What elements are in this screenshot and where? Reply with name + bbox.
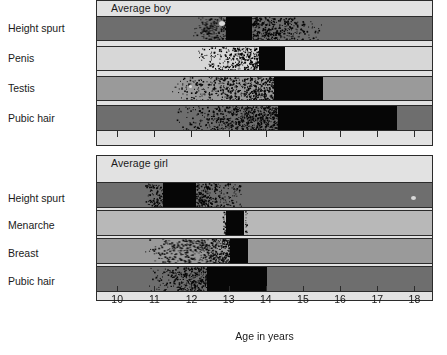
bar-girl-menarche bbox=[97, 210, 432, 236]
solid-peak-block bbox=[226, 17, 252, 40]
stipple-ramp bbox=[144, 239, 229, 263]
axis-tick-label-16: 16 bbox=[334, 293, 346, 305]
solid-peak-block bbox=[274, 77, 322, 100]
stipple-ramp bbox=[174, 106, 278, 130]
axis-tick-15 bbox=[303, 286, 304, 292]
puberty-sequence-figure: Average boy Height spurt Penis Testis Pu… bbox=[0, 0, 447, 355]
axis-tick-13 bbox=[229, 286, 230, 292]
row-label-boy-height-spurt: Height spurt bbox=[8, 22, 94, 34]
x-axis-title: Age in years bbox=[96, 330, 433, 342]
axis-tick-label-15: 15 bbox=[297, 293, 309, 305]
stipple-ramp bbox=[196, 47, 259, 70]
axis-tick-16 bbox=[340, 131, 341, 137]
stipple-fade bbox=[252, 17, 323, 40]
bar-boy-penis bbox=[97, 46, 432, 71]
axis-tick-label-10: 10 bbox=[111, 293, 123, 305]
stipple-ramp bbox=[144, 183, 163, 207]
row-label-boy-penis: Penis bbox=[8, 52, 94, 64]
panel-title-girl: Average girl bbox=[111, 157, 168, 169]
axis-tick-10 bbox=[117, 131, 118, 137]
bar-girl-height-spurt bbox=[97, 182, 432, 208]
axis-tick-label-17: 17 bbox=[371, 293, 383, 305]
stipple-fade bbox=[245, 211, 249, 235]
scan-artifact-speck bbox=[219, 21, 225, 26]
solid-peak-block bbox=[163, 183, 196, 207]
bar-girl-breast bbox=[97, 238, 432, 264]
solid-peak-block bbox=[226, 211, 245, 235]
axis-tick-15 bbox=[303, 131, 304, 137]
row-label-boy-testis: Testis bbox=[8, 82, 94, 94]
solid-peak-block bbox=[230, 239, 249, 263]
axis-tick-label-11: 11 bbox=[149, 293, 160, 305]
axis-tick-18 bbox=[414, 131, 415, 137]
axis-tick-label-14: 14 bbox=[260, 293, 272, 305]
x-axis: 101112131415161718 bbox=[96, 286, 433, 316]
axis-tick-14 bbox=[266, 286, 267, 292]
bar-boy-height-spurt bbox=[97, 16, 432, 41]
row-label-girl-menarche: Menarche bbox=[8, 219, 94, 231]
axis-tick-10 bbox=[117, 286, 118, 292]
axis-tick-label-13: 13 bbox=[223, 293, 235, 305]
panel-average-boy: Average boy bbox=[96, 0, 433, 146]
row-label-girl-pubic-hair: Pubic hair bbox=[8, 275, 94, 287]
boy-axis-ticks bbox=[96, 131, 433, 147]
panel-average-girl: Average girl bbox=[96, 155, 433, 301]
scan-artifact-speck bbox=[189, 85, 192, 88]
axis-tick-17 bbox=[377, 286, 378, 292]
axis-tick-13 bbox=[229, 131, 230, 137]
panel-title-boy: Average boy bbox=[111, 2, 171, 14]
axis-tick-12 bbox=[191, 131, 192, 137]
row-label-girl-breast: Breast bbox=[8, 247, 94, 259]
scan-artifact-speck bbox=[411, 196, 416, 200]
bar-boy-testis bbox=[97, 76, 432, 101]
axis-tick-11 bbox=[154, 131, 155, 137]
stipple-ramp bbox=[170, 77, 274, 100]
axis-tick-16 bbox=[340, 286, 341, 292]
solid-peak-block bbox=[278, 106, 397, 130]
bar-boy-pubic-hair bbox=[97, 105, 432, 131]
axis-tick-18 bbox=[414, 286, 415, 292]
axis-tick-11 bbox=[154, 286, 155, 292]
axis-tick-14 bbox=[266, 131, 267, 137]
axis-tick-17 bbox=[377, 131, 378, 137]
stipple-fade bbox=[196, 183, 248, 207]
axis-tick-label-18: 18 bbox=[409, 293, 421, 305]
row-label-girl-height-spurt: Height spurt bbox=[8, 192, 94, 204]
axis-tick-label-12: 12 bbox=[186, 293, 198, 305]
solid-peak-block bbox=[259, 47, 285, 70]
axis-tick-12 bbox=[191, 286, 192, 292]
row-label-boy-pubic-hair: Pubic hair bbox=[8, 112, 94, 124]
